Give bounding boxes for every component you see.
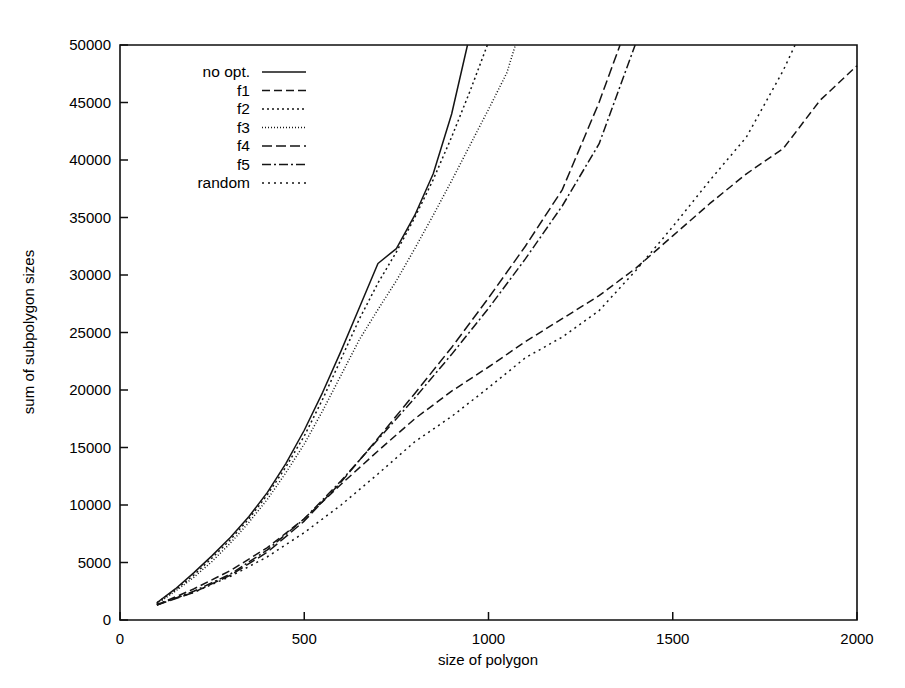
legend-label-f4: f4 — [237, 137, 250, 154]
y-tick-label: 50000 — [69, 36, 111, 53]
chart-figure: 0500010000150002000025000300003500040000… — [0, 0, 905, 688]
y-tick-label: 15000 — [69, 439, 111, 456]
legend-label-f2: f2 — [237, 100, 250, 117]
y-tick-label: 45000 — [69, 94, 111, 111]
y-tick-label: 10000 — [69, 496, 111, 513]
x-tick-label: 0 — [116, 630, 124, 647]
legend-label-f1: f1 — [237, 82, 250, 99]
y-tick-label: 25000 — [69, 324, 111, 341]
x-axis-title: size of polygon — [438, 651, 538, 668]
y-tick-label: 35000 — [69, 209, 111, 226]
legend-label-f5: f5 — [237, 156, 250, 173]
y-axis-title: sum of subpolygon sizes — [20, 250, 37, 414]
y-tick-label: 40000 — [69, 151, 111, 168]
legend-label-f3: f3 — [237, 119, 250, 136]
x-tick-label: 1500 — [656, 630, 689, 647]
y-tick-label: 30000 — [69, 266, 111, 283]
legend-label-random: random — [197, 174, 250, 191]
x-tick-label: 500 — [292, 630, 317, 647]
line-chart: 0500010000150002000025000300003500040000… — [0, 0, 905, 688]
y-tick-label: 20000 — [69, 381, 111, 398]
y-tick-label: 0 — [103, 611, 111, 628]
x-tick-label: 1000 — [472, 630, 505, 647]
chart-background — [0, 0, 905, 688]
legend-label-no-opt-: no opt. — [203, 63, 250, 80]
y-tick-label: 5000 — [78, 554, 111, 571]
x-tick-label: 2000 — [840, 630, 873, 647]
